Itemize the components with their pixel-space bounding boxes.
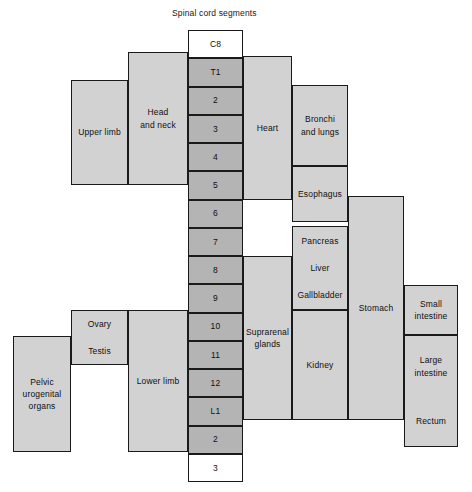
bronchi-and-lungs-label: Bronchiand lungs bbox=[293, 113, 347, 138]
spinal-segment-t1: T1 bbox=[188, 58, 243, 86]
spinal-segment-label: 4 bbox=[189, 151, 242, 163]
stomach: Stomach bbox=[348, 196, 404, 420]
spinal-cord-segments-diagram: Spinal cord segments Headand neckUpper l… bbox=[0, 0, 472, 492]
spinal-segment-label: 2 bbox=[189, 433, 242, 445]
spinal-segment-3: 3 bbox=[188, 454, 243, 482]
spinal-segment-label: 11 bbox=[189, 349, 242, 361]
diagram-title: Spinal cord segments bbox=[172, 8, 257, 18]
supraranal-glands-label: Suprarenalglands bbox=[244, 326, 291, 351]
spinal-segment-label: 3 bbox=[189, 123, 242, 135]
spinal-segment-label: 9 bbox=[189, 292, 242, 304]
large-intestine-rectum-label-1: Rectum bbox=[405, 415, 457, 427]
stomach-label: Stomach bbox=[349, 302, 403, 314]
kidney-label: Kidney bbox=[293, 359, 347, 371]
head-and-neck-label: Headand neck bbox=[129, 106, 187, 131]
spinal-segment-label: T1 bbox=[189, 66, 242, 78]
pancreas-liver-gallbladder-label-0: Pancreas bbox=[293, 235, 347, 247]
spinal-segment-label: L1 bbox=[189, 405, 242, 417]
esophagus: Esophagus bbox=[292, 166, 348, 222]
head-and-neck: Headand neck bbox=[128, 52, 188, 185]
large-intestine-rectum-label-0: Largeintestine bbox=[405, 354, 457, 379]
pelvic-urogenital-organs-label: Pelvicurogenitalorgans bbox=[14, 376, 70, 413]
supraranal-glands: Suprarenalglands bbox=[243, 256, 292, 420]
small-intestine: Smallintestine bbox=[404, 285, 458, 335]
spinal-segment-label: 5 bbox=[189, 179, 242, 191]
small-intestine-label: Smallintestine bbox=[405, 298, 457, 323]
spinal-segment-c8: C8 bbox=[188, 30, 243, 58]
spinal-segment-label: 12 bbox=[189, 377, 242, 389]
bronchi-and-lungs: Bronchiand lungs bbox=[292, 85, 348, 166]
spinal-segment-label: C8 bbox=[189, 38, 242, 50]
heart: Heart bbox=[243, 56, 292, 200]
spinal-segment-5: 5 bbox=[188, 171, 243, 199]
spinal-segment-12: 12 bbox=[188, 369, 243, 397]
spinal-segment-label: 2 bbox=[189, 94, 242, 106]
lower-limb: Lower limb bbox=[128, 310, 188, 452]
upper-limb-label: Upper limb bbox=[72, 126, 127, 138]
pancreas-liver-gallbladder-label-2: Gallbladder bbox=[293, 289, 347, 301]
spinal-segment-7: 7 bbox=[188, 228, 243, 256]
spinal-segment-l1: L1 bbox=[188, 397, 243, 425]
ovary-testis-label-0: Ovary bbox=[72, 318, 127, 330]
spinal-segment-2: 2 bbox=[188, 426, 243, 454]
spinal-segment-3: 3 bbox=[188, 115, 243, 143]
large-intestine-rectum: LargeintestineRectum bbox=[404, 335, 458, 447]
spinal-segment-4: 4 bbox=[188, 143, 243, 171]
spinal-segment-2: 2 bbox=[188, 87, 243, 115]
spinal-segment-label: 10 bbox=[189, 320, 242, 332]
spinal-segment-11: 11 bbox=[188, 341, 243, 369]
ovary-testis-label-1: Testis bbox=[72, 345, 127, 357]
kidney: Kidney bbox=[292, 310, 348, 420]
heart-label: Heart bbox=[244, 122, 291, 134]
spinal-segment-9: 9 bbox=[188, 284, 243, 312]
spinal-segment-8: 8 bbox=[188, 256, 243, 284]
spinal-segment-label: 7 bbox=[189, 236, 242, 248]
esophagus-label: Esophagus bbox=[293, 188, 347, 200]
spinal-segment-label: 6 bbox=[189, 207, 242, 219]
spinal-segment-label: 8 bbox=[189, 264, 242, 276]
lower-limb-label: Lower limb bbox=[129, 375, 187, 387]
upper-limb: Upper limb bbox=[71, 80, 128, 185]
pancreas-liver-gallbladder-label-1: Liver bbox=[293, 262, 347, 274]
spinal-segment-6: 6 bbox=[188, 200, 243, 228]
pelvic-urogenital-organs: Pelvicurogenitalorgans bbox=[13, 336, 71, 452]
spinal-segment-10: 10 bbox=[188, 313, 243, 341]
spinal-segment-label: 3 bbox=[189, 462, 242, 474]
pancreas-liver-gallbladder: PancreasLiverGallbladder bbox=[292, 226, 348, 310]
ovary-testis: OvaryTestis bbox=[71, 310, 128, 365]
